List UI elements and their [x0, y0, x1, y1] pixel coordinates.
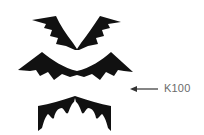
bottom-bat-wing-shape — [38, 96, 111, 131]
arrow-left-icon — [130, 86, 137, 92]
top-bat-wing-shape — [32, 16, 121, 50]
diagram-canvas — [0, 0, 204, 135]
callout-label: K100 — [164, 82, 191, 95]
middle-bat-wing-shape — [18, 52, 133, 80]
